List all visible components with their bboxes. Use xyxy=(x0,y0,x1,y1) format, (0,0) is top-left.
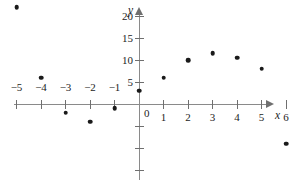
data-point xyxy=(137,89,142,94)
x-tick-4 xyxy=(237,100,238,109)
data-point xyxy=(88,119,93,124)
y-axis-line xyxy=(139,14,140,180)
x-tick-label-neg4: −4 xyxy=(35,82,47,93)
y-tick-neg15 xyxy=(135,170,144,171)
y-tick-20 xyxy=(135,16,144,17)
data-point xyxy=(186,58,191,63)
x-tick-2 xyxy=(188,100,189,109)
scatter-plot-figure: x y 0 −5−4−3−2−1123456 5101520 xyxy=(0,0,294,186)
x-axis-arrow-icon xyxy=(266,100,274,108)
y-tick-5 xyxy=(135,82,144,83)
data-point xyxy=(284,141,289,146)
x-tick-5 xyxy=(261,100,262,109)
y-tick-label-20: 20 xyxy=(101,11,133,22)
x-tick-label-neg2: −2 xyxy=(84,82,96,93)
data-point xyxy=(112,106,117,111)
x-tick-label-neg3: −3 xyxy=(60,82,72,93)
x-tick-neg3 xyxy=(65,100,66,109)
data-point xyxy=(161,75,166,80)
y-tick-10 xyxy=(135,60,144,61)
x-tick-label-neg5: −5 xyxy=(11,82,23,93)
origin-label: 0 xyxy=(144,108,150,119)
y-tick-15 xyxy=(135,38,144,39)
x-axis-line xyxy=(14,104,268,105)
y-tick-label-10: 10 xyxy=(101,55,133,66)
y-tick-label-5: 5 xyxy=(101,77,133,88)
y-tick-label-15: 15 xyxy=(101,33,133,44)
data-point xyxy=(39,75,44,80)
data-point xyxy=(259,67,264,72)
x-tick-label-5: 5 xyxy=(259,112,265,123)
x-tick-3 xyxy=(212,100,213,109)
data-point xyxy=(235,56,240,61)
x-tick-6 xyxy=(286,100,287,109)
x-tick-neg4 xyxy=(41,100,42,109)
x-axis-label: x xyxy=(275,110,280,122)
x-tick-label-4: 4 xyxy=(234,112,240,123)
data-point xyxy=(63,111,68,116)
x-tick-label-1: 1 xyxy=(161,112,167,123)
y-tick-neg5 xyxy=(135,126,144,127)
x-tick-label-2: 2 xyxy=(185,112,191,123)
y-axis-arrow-icon xyxy=(135,7,143,15)
x-tick-1 xyxy=(163,100,164,109)
data-point xyxy=(14,5,19,10)
x-tick-neg2 xyxy=(90,100,91,109)
x-tick-label-3: 3 xyxy=(210,112,216,123)
x-tick-neg5 xyxy=(16,100,17,109)
x-tick-label-6: 6 xyxy=(283,112,289,123)
y-tick-neg10 xyxy=(135,148,144,149)
data-point xyxy=(210,51,215,56)
